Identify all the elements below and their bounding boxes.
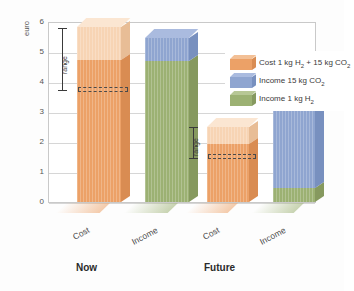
bar-future-cost — [207, 144, 249, 202]
dashed-marker-now-cost — [78, 87, 128, 92]
legend-swatch-income-co2-icon — [230, 77, 252, 88]
legend-swatch-income-h2-icon — [230, 95, 252, 106]
dashed-marker-future-cost — [208, 154, 256, 159]
bar-future-income-h2 — [273, 188, 315, 202]
legend-label-income-co2: Income 15 kg CO2 — [259, 76, 325, 87]
bar-now-income-h2 — [145, 61, 189, 202]
floor-shadow-future-income — [252, 203, 304, 213]
bar-future-cost-range — [207, 127, 249, 144]
bar-now-cost-range — [77, 27, 121, 60]
range-label-now: range — [61, 56, 68, 74]
legend-item-cost-h2-co2: Cost 1 kg H2 + 15 kg CO2 — [228, 54, 350, 72]
group-label-now: Now — [76, 262, 97, 273]
category-label-future-income: Income — [258, 225, 287, 247]
range-label-future: range — [192, 138, 199, 156]
group-label-future: Future — [204, 262, 235, 273]
floor-shadow-now-income — [124, 203, 178, 213]
range-annotation-future: range — [189, 127, 199, 159]
category-label-now-cost: Cost — [71, 225, 91, 242]
y-tick-3: 3 — [30, 108, 44, 116]
category-label-future-cost: Cost — [201, 225, 221, 242]
bar-now-income-co2 — [145, 38, 189, 61]
category-label-now-income: Income — [130, 225, 159, 247]
bar-now-cost — [77, 60, 121, 202]
y-tick-2: 2 — [30, 138, 44, 146]
y-tick-4: 4 — [30, 78, 44, 86]
legend-item-income-co2: Income 15 kg CO2 — [228, 72, 350, 90]
y-tick-5: 5 — [30, 48, 44, 56]
floor-shadow-future-cost — [186, 203, 238, 213]
legend-swatch-cost-icon — [230, 59, 252, 70]
range-annotation-now: range — [58, 28, 68, 91]
legend-label-income-h2: Income 1 kg H2 — [259, 94, 314, 105]
legend: Cost 1 kg H2 + 15 kg CO2 Income 15 kg CO… — [225, 51, 354, 111]
y-tick-6: 6 — [30, 18, 44, 26]
y-tick-1: 1 — [30, 168, 44, 176]
plot-area: range range Cost 1 kg H2 + 15 kg CO2 — [48, 22, 316, 203]
legend-item-income-h2: Income 1 kg H2 — [228, 90, 350, 108]
legend-label-cost: Cost 1 kg H2 + 15 kg CO2 — [259, 58, 350, 69]
floor-shadow-now-cost — [56, 203, 110, 213]
y-tick-0: 0 — [30, 198, 44, 206]
